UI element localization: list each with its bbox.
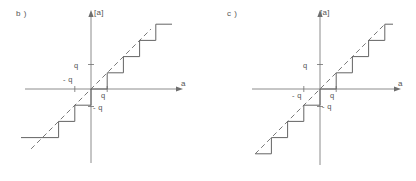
panel-b-plot [0,0,208,181]
panel-c-x-axis-arrow [394,86,401,91]
panel-b-x-axis-arrow [176,86,183,91]
panel-c-plot [208,0,416,181]
panel-c: c ) [a] a q - q q - q [208,0,416,181]
panel-b-staircase [21,24,172,137]
panel-c-y-axis-arrow [317,10,322,17]
panel-b: b ) [a] a q - q q - q [0,0,208,181]
panel-b-y-axis-arrow [88,10,93,17]
quantizer-figure: b ) [a] a q - q q - q c ) [a] [0,0,416,181]
